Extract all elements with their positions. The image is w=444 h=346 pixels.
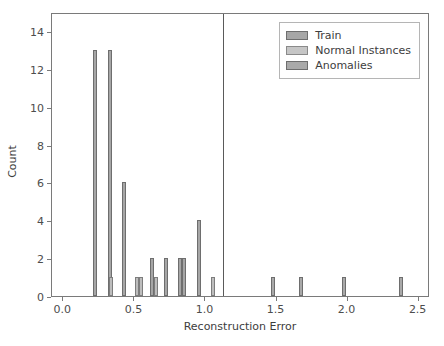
histogram-bar	[109, 277, 113, 296]
x-axis-tick	[204, 297, 205, 301]
y-axis-tick	[47, 183, 51, 184]
y-axis-tick	[47, 297, 51, 298]
y-axis-tick-label: 10	[30, 101, 44, 114]
histogram-bar	[299, 277, 303, 296]
histogram-bar	[93, 50, 97, 296]
legend-swatch-normal-instances-icon	[286, 46, 308, 55]
x-axis-tick-label: 1.0	[196, 303, 214, 316]
histogram-bar	[154, 277, 158, 296]
y-axis-tick	[47, 70, 51, 71]
x-axis-tick-label: 0.5	[125, 303, 143, 316]
histogram-bar	[211, 277, 215, 296]
histogram-figure: 02468101214 Train Normal Instances Anoma…	[0, 0, 444, 346]
x-axis-tick-label: 2.0	[338, 303, 356, 316]
y-axis-tick-label: 14	[30, 25, 44, 38]
y-axis-tick-label: 12	[30, 63, 44, 76]
x-axis-tick-label: 0.0	[54, 303, 72, 316]
x-axis-tick-label: 2.5	[409, 303, 427, 316]
histogram-bar	[342, 277, 346, 296]
legend-label-anomalies: Anomalies	[315, 59, 372, 72]
histogram-bar	[271, 277, 275, 296]
y-axis-tick	[47, 32, 51, 33]
y-axis-tick	[47, 108, 51, 109]
x-axis-tick-label: 1.5	[267, 303, 285, 316]
histogram-bar	[182, 258, 186, 296]
legend-item-anomalies[interactable]: Anomalies	[286, 58, 411, 73]
legend: Train Normal Instances Anomalies	[279, 22, 420, 79]
legend-swatch-anomalies-icon	[286, 61, 308, 70]
histogram-bar	[399, 277, 403, 296]
legend-label-train: Train	[315, 29, 341, 42]
histogram-bar	[122, 182, 126, 296]
x-axis-tick	[62, 297, 63, 301]
y-axis-tick-label: 0	[37, 291, 44, 304]
x-axis-tick	[418, 297, 419, 301]
threshold-line	[223, 14, 224, 296]
x-axis-tick	[276, 297, 277, 301]
plot-axes: Train Normal Instances Anomalies	[51, 13, 429, 297]
y-axis-tick-label: 2	[37, 253, 44, 266]
x-axis-label: Reconstruction Error	[51, 320, 429, 333]
histogram-bar	[139, 277, 143, 296]
y-axis-tick-label: 6	[37, 177, 44, 190]
legend-label-normal-instances: Normal Instances	[315, 44, 411, 57]
histogram-bar	[164, 258, 168, 296]
legend-item-normal-instances[interactable]: Normal Instances	[286, 43, 411, 58]
histogram-bar	[108, 50, 112, 296]
y-axis-label: Count	[6, 132, 19, 192]
x-axis-tick	[347, 297, 348, 301]
legend-item-train[interactable]: Train	[286, 28, 411, 43]
legend-swatch-train-icon	[286, 31, 308, 40]
y-axis-tick-label: 8	[37, 139, 44, 152]
y-axis-tick	[47, 259, 51, 260]
x-axis-tick	[133, 297, 134, 301]
y-axis-tick	[47, 146, 51, 147]
histogram-bar	[197, 220, 201, 296]
y-axis-tick-label: 4	[37, 215, 44, 228]
y-axis-tick	[47, 221, 51, 222]
